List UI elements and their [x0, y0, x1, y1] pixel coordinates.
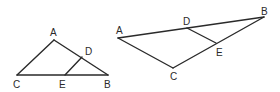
right-label-c: C	[170, 71, 177, 82]
right-label-d: D	[183, 16, 190, 27]
right-side-ac	[118, 38, 173, 68]
right-label-b: B	[261, 6, 268, 17]
right-label-a: A	[116, 25, 123, 36]
right-triangle-figure: A D B E C	[116, 6, 268, 82]
left-label-e: E	[59, 79, 66, 90]
right-label-e: E	[216, 47, 223, 58]
left-side-ac	[17, 40, 54, 75]
left-label-c: C	[13, 79, 20, 90]
left-segment-de	[65, 57, 82, 75]
diagram-canvas: A D C E B A D B E C	[0, 0, 280, 92]
left-label-a: A	[50, 27, 57, 38]
left-triangle-figure: A D C E B	[13, 27, 111, 90]
right-side-ab	[118, 17, 264, 38]
left-label-d: D	[85, 46, 92, 57]
left-label-b: B	[104, 79, 111, 90]
right-segment-de	[187, 28, 216, 43]
